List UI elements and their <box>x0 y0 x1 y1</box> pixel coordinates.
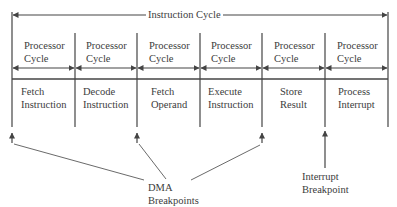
stage-decode-instruction: DecodeInstruction <box>83 86 129 111</box>
processor-cycle-label-1: ProcessorCycle <box>24 40 65 65</box>
processor-cycle-label-2: ProcessorCycle <box>86 40 127 65</box>
processor-cycle-label-5: ProcessorCycle <box>274 40 315 65</box>
stage-execute-instruction: ExecuteInstruction <box>208 86 254 111</box>
stage-fetch-operand: FetchOperand <box>151 86 187 111</box>
processor-cycle-label-4: ProcessorCycle <box>211 40 252 65</box>
interrupt-breakpoint-label: InterruptBreakpoint <box>302 171 349 196</box>
stage-process-interrupt: ProcessInterrupt <box>338 86 375 111</box>
stage-fetch-instruction: FetchInstruction <box>21 86 67 111</box>
stage-store-result: StoreResult <box>280 86 307 111</box>
instruction-cycle-label: Instruction Cycle <box>146 9 223 21</box>
processor-cycle-label-3: ProcessorCycle <box>149 40 190 65</box>
processor-cycle-label-6: ProcessorCycle <box>337 40 378 65</box>
dma-breakpoints-label: DMABreakpoints <box>148 182 199 207</box>
